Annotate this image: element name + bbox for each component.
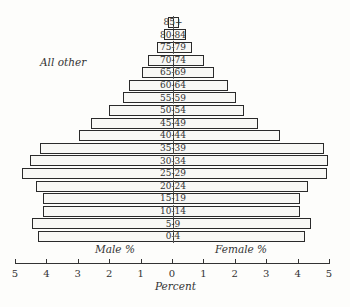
bar-male xyxy=(36,181,174,192)
x-tick xyxy=(141,259,142,264)
bar-male xyxy=(43,193,174,204)
bar-female xyxy=(173,218,311,229)
x-tick xyxy=(203,259,204,264)
bar-male xyxy=(40,143,174,154)
x-tick-label: 3 xyxy=(71,268,85,279)
bar-female xyxy=(173,181,308,192)
center-line xyxy=(173,16,174,243)
x-tick-label: 1 xyxy=(134,268,148,279)
x-tick xyxy=(46,259,47,264)
bar-female xyxy=(173,206,300,217)
male-label: Male % xyxy=(95,243,135,255)
female-label: Female % xyxy=(215,243,267,255)
bar-female xyxy=(173,143,324,154)
x-tick-label: 0 xyxy=(165,268,179,279)
x-tick-label: 3 xyxy=(259,268,273,279)
bar-female xyxy=(173,130,280,141)
x-tick-label: 4 xyxy=(291,268,305,279)
x-axis-title: Percent xyxy=(155,280,196,292)
x-tick xyxy=(266,259,267,264)
x-tick-label: 1 xyxy=(196,268,210,279)
x-tick xyxy=(329,259,330,264)
x-tick-label: 5 xyxy=(8,268,22,279)
bar-female xyxy=(173,231,305,242)
bar-female xyxy=(173,168,327,179)
x-tick xyxy=(15,259,16,264)
population-pyramid-chart: All other 85+80-8475-7970-7465-6960-6455… xyxy=(0,0,350,307)
x-tick-label: 2 xyxy=(102,268,116,279)
bar-male xyxy=(30,155,174,166)
x-tick xyxy=(78,259,79,264)
bar-male xyxy=(38,231,174,242)
x-tick xyxy=(109,259,110,264)
x-tick-label: 4 xyxy=(39,268,53,279)
annotation-all-other: All other xyxy=(40,56,86,68)
bar-female xyxy=(173,155,328,166)
bar-male xyxy=(43,206,174,217)
x-tick-label: 2 xyxy=(228,268,242,279)
x-tick xyxy=(298,259,299,264)
x-tick xyxy=(172,259,173,264)
bar-female xyxy=(173,193,300,204)
x-tick xyxy=(235,259,236,264)
x-tick-label: 5 xyxy=(322,268,336,279)
bar-male xyxy=(22,168,174,179)
bar-male xyxy=(32,218,174,229)
